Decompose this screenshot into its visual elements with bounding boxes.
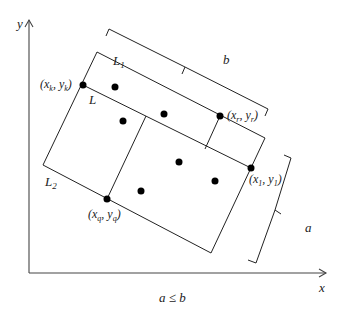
- interior-point: [212, 178, 219, 185]
- divider-r: [205, 116, 220, 149]
- label-point-r: (xr, yr): [227, 108, 258, 124]
- interior-point: [138, 188, 145, 195]
- point-1: [248, 165, 255, 172]
- interior-point: [112, 84, 119, 91]
- interior-points: [112, 84, 219, 195]
- label-a: a: [305, 220, 312, 235]
- label-L: L: [88, 92, 96, 107]
- axes: y x: [15, 16, 326, 295]
- label-point-k: (xk, yk): [40, 77, 72, 93]
- bounding-rectangle: [43, 52, 265, 253]
- x-axis-label: x: [318, 280, 325, 295]
- point-q: [104, 196, 111, 203]
- label-point-1: (x1, y1): [249, 172, 282, 188]
- label-b: b: [223, 52, 230, 67]
- y-axis-label: y: [15, 16, 23, 31]
- label-L2: L2: [44, 174, 57, 191]
- interior-point: [120, 118, 127, 125]
- line-L: [83, 85, 251, 168]
- divider-q: [107, 116, 146, 199]
- caption-a-le-b: a ≤ b: [159, 290, 186, 305]
- interior-point: [161, 111, 168, 118]
- interior-point: [176, 159, 183, 166]
- diagram-canvas: y x L1 L L2 b a a ≤ b (xk, yk) (xr, yr) …: [0, 0, 343, 318]
- label-L1: L1: [112, 53, 125, 70]
- point-k: [80, 82, 87, 89]
- brace-b: [106, 29, 268, 116]
- point-r: [217, 113, 224, 120]
- label-point-q: (xq, yq): [88, 207, 121, 223]
